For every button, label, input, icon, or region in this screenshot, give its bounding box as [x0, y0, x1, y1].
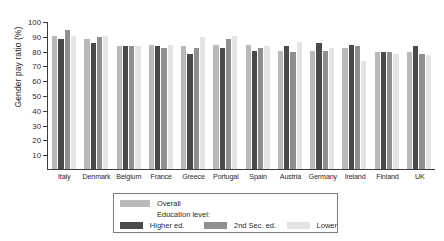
bar — [103, 36, 108, 169]
y-tick-label: 30 — [32, 121, 41, 130]
bar — [187, 54, 192, 169]
legend-swatch-overall — [120, 200, 150, 208]
bar-group — [48, 22, 80, 169]
bar — [129, 46, 134, 169]
y-tick — [43, 126, 47, 127]
y-tick — [43, 37, 47, 38]
y-tick — [43, 81, 47, 82]
bar — [155, 46, 160, 169]
x-axis-labels: ItalyDenmarkBelgiumFranceGreecePortugalS… — [48, 172, 436, 181]
bar-group — [113, 22, 145, 169]
bar — [323, 51, 328, 169]
bar-group — [274, 22, 306, 169]
x-tick-label: Portugal — [210, 172, 242, 181]
y-tick — [43, 52, 47, 53]
bar — [310, 51, 315, 169]
bar-group — [242, 22, 274, 169]
bar — [407, 52, 412, 169]
bar — [342, 48, 347, 169]
bar — [258, 48, 263, 169]
y-tick — [43, 96, 47, 97]
bar — [200, 37, 205, 169]
y-tick-label: 100 — [28, 18, 41, 27]
bar — [355, 46, 360, 169]
bar-group — [371, 22, 403, 169]
bar — [426, 55, 431, 169]
bar — [220, 48, 225, 169]
bar-group — [177, 22, 209, 169]
x-tick-label: Austria — [274, 172, 306, 181]
x-tick-label: Greece — [177, 172, 209, 181]
bar-group — [338, 22, 370, 169]
x-tick-label: France — [145, 172, 177, 181]
plot-area: 100908070605040302010 — [47, 22, 435, 170]
x-tick-label: Spain — [242, 172, 274, 181]
bar — [135, 46, 140, 169]
legend-label-education-level: Education level: — [157, 210, 210, 219]
chart-figure: Gender pay ratio (%) 1009080706050403020… — [0, 0, 444, 241]
y-tick-label: 90 — [32, 32, 41, 41]
x-tick-label: Ireland — [339, 172, 371, 181]
legend-swatch-second-sec-ed — [204, 222, 227, 230]
x-tick-label: Denmark — [80, 172, 112, 181]
bar — [329, 48, 334, 169]
bar — [264, 46, 269, 169]
y-tick — [43, 155, 47, 156]
bar — [284, 46, 289, 169]
bar — [84, 39, 89, 169]
bar-group — [145, 22, 177, 169]
bar — [375, 52, 380, 169]
bar — [194, 48, 199, 169]
bar — [349, 45, 354, 169]
x-tick-label: UK — [404, 172, 436, 181]
x-tick-label: Germany — [307, 172, 339, 181]
y-tick-label: 80 — [32, 47, 41, 56]
legend-label-lower: Lower — [317, 221, 337, 230]
bar-groups — [48, 22, 435, 169]
bar — [278, 51, 283, 169]
bar — [168, 45, 173, 169]
bar — [297, 42, 302, 169]
bar — [316, 43, 321, 169]
bar — [58, 39, 63, 169]
legend-label-higher-ed: Higher ed. — [150, 221, 185, 230]
bar — [361, 61, 366, 169]
legend-row-education-items: Higher ed. 2nd Sec. ed. Lower — [114, 220, 337, 231]
bar — [161, 48, 166, 169]
bar — [252, 51, 257, 169]
bar — [419, 54, 424, 169]
bar — [181, 46, 186, 169]
x-tick-label: Finland — [371, 172, 403, 181]
bar-group — [80, 22, 112, 169]
legend-swatch-lower — [287, 222, 310, 230]
bar-group — [403, 22, 435, 169]
y-tick-label: 10 — [32, 151, 41, 160]
bar-group — [306, 22, 338, 169]
bar — [393, 54, 398, 169]
y-tick-label: 70 — [32, 62, 41, 71]
bar — [91, 43, 96, 169]
y-tick-label: 40 — [32, 106, 41, 115]
y-tick-label: 20 — [32, 136, 41, 145]
y-tick — [43, 140, 47, 141]
legend-row-overall: Overall — [114, 198, 337, 209]
bar — [387, 52, 392, 169]
bar — [246, 45, 251, 169]
legend-row-education-header: Education level: — [114, 209, 337, 220]
legend-label-overall: Overall — [157, 199, 181, 208]
y-axis-title: Gender pay ratio (%) — [13, 0, 23, 137]
bar-group — [209, 22, 241, 169]
chart-legend: Overall Education level: Higher ed. 2nd … — [113, 193, 338, 233]
y-tick — [43, 111, 47, 112]
x-axis-line — [47, 169, 435, 170]
y-tick — [43, 22, 47, 23]
bar — [413, 46, 418, 169]
bar — [52, 36, 57, 169]
x-tick-label: Italy — [48, 172, 80, 181]
bar — [213, 45, 218, 169]
legend-swatch-higher-ed — [120, 222, 143, 230]
bar — [117, 46, 122, 169]
y-tick-label: 60 — [32, 77, 41, 86]
bar — [123, 46, 128, 169]
bar — [381, 52, 386, 169]
